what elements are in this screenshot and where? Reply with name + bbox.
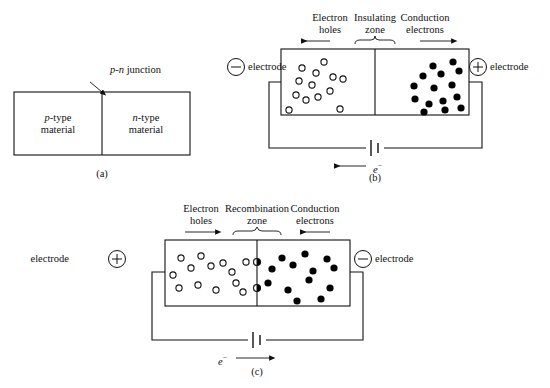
panel-b-right-electrode-label: electrode	[490, 61, 528, 73]
panel-b-header-zone-line1: Insulating	[354, 12, 396, 23]
panel-b-header-holes: Electron holes	[312, 12, 348, 35]
p-type-rest: -type	[50, 112, 72, 123]
panel-b-zone-brace	[355, 36, 395, 44]
panel-b-header-electrons: Conduction electrons	[401, 12, 450, 35]
panel-c-right-electrode-label: electrode	[375, 253, 413, 265]
n-type-line2: material	[129, 124, 163, 135]
panel-c-conduction-electrons	[264, 250, 337, 304]
panel-b-letter: (b)	[369, 172, 381, 183]
pn-junction-italic: p-n	[110, 64, 124, 75]
n-type-region-label: n-type material	[129, 112, 163, 135]
panel-b-header-zone-line2: zone	[365, 24, 385, 35]
panel-c-graphics	[109, 227, 372, 358]
panel-c-header-holes-line1: Electron	[183, 203, 219, 214]
panel-c-header-zone-line1: Recombination	[225, 203, 289, 214]
panel-c-header-holes-line2: holes	[190, 215, 212, 226]
panel-c-header-holes: Electron holes	[183, 203, 219, 226]
p-type-line2: material	[41, 124, 75, 135]
panel-c-left-electrode-label: electrode	[31, 253, 69, 265]
panel-b-electron-holes	[286, 59, 346, 113]
panel-c-current-sup: −	[223, 353, 227, 362]
panel-c-letter: (c)	[251, 366, 263, 377]
pn-junction-diagram	[0, 0, 550, 388]
figure-canvas: p-n junction p-type material n-type mate…	[0, 0, 550, 388]
panel-b-left-electrode-label: electrode	[248, 61, 286, 73]
panel-c-current-label: e−	[218, 352, 227, 367]
panel-b-current-sup: −	[378, 161, 382, 170]
panel-c-zone-brace	[233, 227, 281, 235]
panel-a-letter: (a)	[96, 168, 108, 179]
panel-c-header-zone-line2: zone	[247, 215, 267, 226]
panel-c-header-electrons: Conduction electrons	[291, 203, 340, 226]
panel-c-electron-holes	[170, 253, 249, 295]
panel-b-conduction-electrons	[410, 58, 464, 115]
pn-junction-annotation: p-n junction	[110, 64, 161, 76]
panel-c-header-zone: Recombination zone	[225, 203, 289, 226]
n-type-rest: -type	[138, 112, 160, 123]
panel-c-header-electrons-line1: Conduction	[291, 203, 340, 214]
panel-c-header-electrons-line2: electrons	[296, 215, 334, 226]
panel-b-graphics	[228, 36, 487, 166]
panel-b-header-electrons-line2: electrons	[406, 24, 444, 35]
p-type-region-label: p-type material	[41, 112, 75, 135]
panel-b-header-electrons-line1: Conduction	[401, 12, 450, 23]
panel-b-header-holes-line2: holes	[319, 24, 341, 35]
panel-a-junction-pointer	[90, 82, 102, 92]
panel-b-header-holes-line1: Electron	[312, 12, 348, 23]
pn-junction-rest: junction	[124, 64, 161, 75]
panel-b-header-zone: Insulating zone	[354, 12, 396, 35]
